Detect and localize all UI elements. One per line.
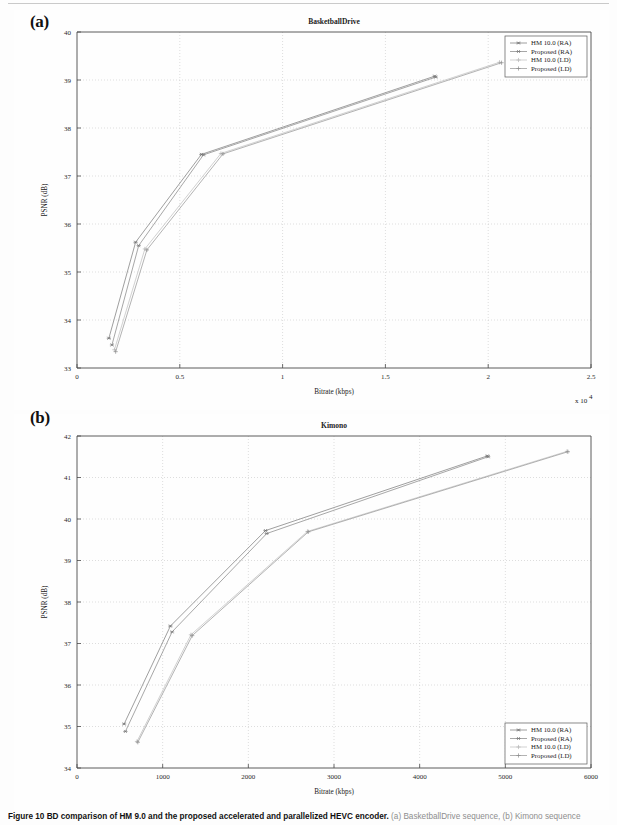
series-markers	[136, 450, 570, 745]
data-point-marker	[499, 61, 503, 65]
caption-tail-text: (a) BasketballDrive sequence, (b) Kimono…	[391, 812, 580, 821]
xtick-label: 0.5	[175, 373, 184, 381]
legend-item-label: HM 10.0 (RA)	[531, 726, 571, 734]
data-point-marker	[168, 625, 172, 628]
data-point-marker	[265, 532, 269, 535]
legend-item-label: Proposed (RA)	[531, 48, 572, 56]
series-markers	[107, 75, 437, 340]
series-line	[116, 63, 502, 352]
ytick-label: 39	[64, 77, 72, 85]
ytick-label: 38	[64, 125, 72, 133]
ytick-label: 34	[64, 765, 72, 773]
ytick-label: 41	[64, 474, 72, 482]
chart-title: Kimono	[321, 421, 347, 430]
ytick-label: 34	[64, 317, 72, 325]
ytick-label: 35	[64, 269, 72, 277]
legend-item-label: HM 10.0 (RA)	[531, 39, 571, 47]
ytick-label: 40	[64, 516, 72, 524]
chart-legend: HM 10.0 (RA)Proposed (RA)HM 10.0 (LD)Pro…	[505, 36, 587, 77]
xtick-label: 1000	[156, 773, 171, 781]
series-line	[124, 456, 487, 724]
figure-caption: Figure 10 BD comparison of HM 9.0 and th…	[8, 812, 609, 822]
legend-item-label: HM 10.0 (LD)	[531, 743, 571, 751]
page-top-rule	[8, 3, 609, 4]
data-point-marker	[263, 529, 267, 532]
data-point-marker	[122, 722, 126, 725]
ytick-label: 36	[64, 221, 72, 229]
xtick-label: 4000	[413, 773, 428, 781]
ytick-label: 39	[64, 557, 72, 565]
panel-label-a: (a)	[30, 12, 49, 32]
legend-item-label: Proposed (RA)	[531, 735, 572, 743]
series-line	[112, 77, 436, 345]
xtick-label: 0	[75, 373, 79, 381]
series-line	[138, 452, 568, 743]
data-point-marker	[136, 740, 140, 744]
data-point-marker	[170, 630, 174, 633]
xtick-label: 6000	[584, 773, 599, 781]
ytick-label: 38	[64, 599, 72, 607]
ytick-label: 36	[64, 682, 72, 690]
ytick-label: 40	[64, 29, 72, 37]
ytick-label: 37	[64, 173, 72, 181]
x-axis-exponent: x 104	[575, 393, 593, 405]
legend-item-label: Proposed (LD)	[531, 65, 572, 73]
x-axis-title: Bitrate (kbps)	[314, 788, 354, 796]
chart-panel-a: BasketballDrive00.511.522.53334353637383…	[14, 10, 609, 410]
chart-a-svg: BasketballDrive00.511.522.53334353637383…	[14, 10, 609, 410]
ytick-label: 35	[64, 723, 72, 731]
series-line	[125, 457, 488, 732]
series-line	[114, 62, 499, 350]
y-axis-title: PSNR (dB)	[41, 585, 49, 619]
xtick-label: 1	[281, 373, 285, 381]
xtick-label: 2000	[241, 773, 256, 781]
xtick-label: 0	[75, 773, 79, 781]
svg-text:4: 4	[589, 393, 593, 401]
series-markers	[123, 455, 490, 733]
ytick-label: 42	[64, 433, 72, 441]
xtick-label: 3000	[327, 773, 342, 781]
series-line	[109, 76, 435, 338]
ytick-label: 33	[64, 365, 72, 373]
xtick-label: 2.5	[587, 373, 596, 381]
y-axis-title: PSNR (dB)	[41, 183, 49, 217]
x-axis-title: Bitrate (kbps)	[314, 388, 354, 396]
data-point-marker	[566, 450, 570, 454]
chart-legend: HM 10.0 (RA)Proposed (RA)HM 10.0 (LD)Pro…	[505, 723, 587, 764]
chart-title: BasketballDrive	[308, 17, 360, 26]
legend-item-label: HM 10.0 (LD)	[531, 56, 571, 64]
chart-panel-b: Kimono0100020003000400050006000343536373…	[14, 414, 609, 810]
figure-page: BasketballDrive00.511.522.53334353637383…	[0, 0, 617, 825]
ytick-label: 37	[64, 640, 72, 648]
series-markers	[114, 61, 504, 354]
axes-frame	[77, 32, 591, 368]
chart-b-svg: Kimono0100020003000400050006000343536373…	[14, 414, 609, 810]
xtick-label: 5000	[498, 773, 513, 781]
xtick-label: 1.5	[381, 373, 390, 381]
data-point-marker	[123, 730, 127, 733]
legend-item-label: Proposed (LD)	[531, 752, 572, 760]
svg-text:x 10: x 10	[575, 397, 588, 405]
caption-bold-text: Figure 10 BD comparison of HM 9.0 and th…	[8, 812, 389, 821]
series-markers	[112, 60, 501, 352]
series-line	[137, 451, 567, 741]
xtick-label: 2	[486, 373, 490, 381]
panel-label-b: (b)	[30, 408, 50, 428]
